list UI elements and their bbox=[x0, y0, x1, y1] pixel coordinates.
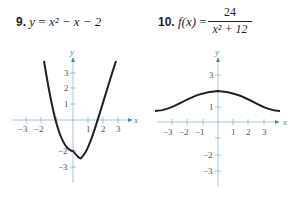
svg-text:1: 1 bbox=[86, 124, 91, 134]
svg-text:−3: −3 bbox=[18, 124, 28, 134]
svg-text:3: 3 bbox=[116, 124, 121, 134]
graph-9 bbox=[12, 58, 132, 183]
svg-text:1: 1 bbox=[64, 99, 69, 109]
svg-text:x: x bbox=[133, 115, 138, 125]
svg-text:3: 3 bbox=[262, 127, 267, 137]
svg-text:3: 3 bbox=[209, 70, 214, 80]
svg-text:1: 1 bbox=[209, 102, 214, 112]
bell-curve bbox=[155, 91, 280, 111]
graph-9-labels: −3 −2 1 2 3 3 2 1 −2 −3 y x bbox=[18, 47, 138, 172]
svg-text:−2: −2 bbox=[179, 127, 189, 137]
svg-text:2: 2 bbox=[246, 127, 251, 137]
svg-text:−2: −2 bbox=[34, 124, 44, 134]
svg-text:−3: −3 bbox=[58, 162, 68, 172]
svg-text:−3: −3 bbox=[163, 127, 173, 137]
parabola-curve bbox=[44, 61, 116, 158]
svg-text:x: x bbox=[282, 117, 287, 127]
graph-10-labels: −3 −2 −1 1 2 3 3 1 −2 −3 y x bbox=[163, 47, 287, 176]
svg-text:2: 2 bbox=[101, 124, 106, 134]
svg-text:y: y bbox=[214, 47, 219, 57]
svg-text:−1: −1 bbox=[195, 127, 205, 137]
svg-text:−3: −3 bbox=[203, 166, 213, 176]
graphs: −3 −2 1 2 3 3 2 1 −2 −3 y x −3 −2 −1 1 2… bbox=[0, 0, 303, 202]
svg-text:1: 1 bbox=[231, 127, 236, 137]
svg-text:y: y bbox=[69, 47, 74, 57]
svg-text:2: 2 bbox=[64, 83, 69, 93]
graph-10 bbox=[157, 58, 279, 186]
svg-text:−2: −2 bbox=[203, 150, 213, 160]
svg-text:3: 3 bbox=[64, 68, 69, 78]
